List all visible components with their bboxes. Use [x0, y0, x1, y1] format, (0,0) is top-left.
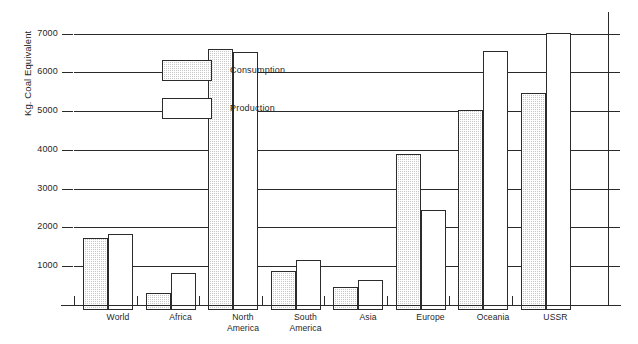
x-axis-separator-tick — [512, 296, 513, 305]
x-axis-separator-tick — [262, 296, 263, 305]
y-tick-mark-right-1000 — [608, 266, 620, 267]
x-tick-label-ussr: USSR — [516, 312, 596, 323]
plot-area: 1000200030004000500060007000 WorldAfrica… — [74, 18, 608, 310]
bar-production-oceania[interactable] — [483, 51, 508, 310]
bar-production-ussr[interactable] — [546, 33, 571, 310]
y-tick-label: 6000 — [22, 66, 58, 76]
y-tick-mark-right-7000 — [608, 34, 620, 35]
x-tick-label-line: Europe — [416, 312, 444, 322]
bar-group — [521, 23, 571, 310]
legend-swatch-production — [162, 98, 212, 119]
x-axis-baseline — [61, 305, 621, 306]
bar-group — [333, 23, 383, 310]
bar-chart: Kg. Coal Equivalent 10002000300040005000… — [0, 0, 638, 344]
x-axis-separator-tick — [324, 296, 325, 305]
y-tick-mark-7000 — [62, 34, 73, 35]
bar-production-europe[interactable] — [421, 210, 446, 310]
x-axis-separator-tick — [74, 296, 75, 305]
x-axis-separator-tick — [137, 296, 138, 305]
y-tick-mark-2000 — [62, 227, 73, 228]
y-tick-mark-right-3000 — [608, 189, 620, 190]
x-tick-label-line: Oceania — [477, 312, 510, 322]
bar-group — [396, 23, 446, 310]
y-tick-label: 2000 — [22, 221, 58, 231]
legend-label: Consumption — [230, 65, 285, 75]
legend-swatch-consumption — [162, 60, 212, 81]
y-tick-mark-1000 — [62, 266, 73, 267]
y-tick-mark-right-5000 — [608, 111, 620, 112]
bar-consumption-world[interactable] — [83, 238, 108, 310]
y-tick-label: 1000 — [22, 260, 58, 270]
x-tick-label-line: World — [107, 312, 130, 322]
y-axis-title: Kg. Coal Equivalent — [22, 0, 40, 116]
bar-consumption-europe[interactable] — [396, 154, 421, 310]
right-axis-line — [608, 12, 609, 306]
legend-label: Production — [230, 103, 275, 113]
x-axis-separator-tick — [199, 296, 200, 305]
x-tick-label-line: South — [294, 312, 317, 322]
x-axis-separator-tick — [387, 296, 388, 305]
bar-consumption-asia[interactable] — [333, 287, 358, 310]
x-tick-label-line: Africa — [169, 312, 192, 322]
bar-group — [458, 23, 508, 310]
y-tick-mark-right-4000 — [608, 150, 620, 151]
y-tick-mark-right-2000 — [608, 227, 620, 228]
x-tick-label-line: USSR — [543, 312, 567, 322]
x-tick-label-line: North — [232, 312, 254, 322]
bar-production-world[interactable] — [108, 234, 133, 310]
bar-group — [83, 23, 133, 310]
y-tick-mark-6000 — [62, 72, 73, 73]
y-tick-label: 5000 — [22, 105, 58, 115]
bar-production-north-america[interactable] — [233, 52, 258, 310]
bar-consumption-ussr[interactable] — [521, 93, 546, 310]
y-tick-mark-3000 — [62, 189, 73, 190]
y-tick-mark-5000 — [62, 111, 73, 112]
bar-consumption-oceania[interactable] — [458, 110, 483, 311]
x-axis-separator-tick — [449, 296, 450, 305]
y-tick-label: 4000 — [22, 144, 58, 154]
bar-consumption-africa[interactable] — [146, 293, 171, 310]
y-tick-label: 3000 — [22, 183, 58, 193]
x-tick-label-line: Asia — [359, 312, 376, 322]
bar-production-south-america[interactable] — [296, 260, 321, 310]
y-tick-mark-right-6000 — [608, 72, 620, 73]
y-tick-label: 7000 — [22, 28, 58, 38]
bar-consumption-north-america[interactable] — [208, 49, 233, 310]
x-tick-label-line: America — [266, 323, 346, 334]
y-tick-mark-4000 — [62, 150, 73, 151]
